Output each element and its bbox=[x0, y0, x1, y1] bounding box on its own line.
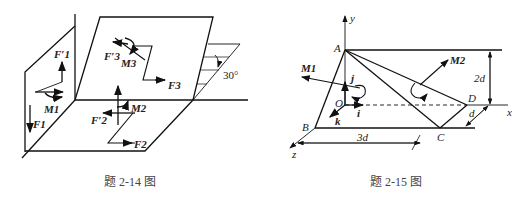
label-y: y bbox=[349, 12, 355, 24]
label-j: j bbox=[349, 72, 355, 84]
label-O: O bbox=[335, 97, 343, 109]
label-F1: F1 bbox=[32, 118, 46, 130]
inclined-plane bbox=[75, 17, 213, 100]
label-C: C bbox=[437, 131, 445, 143]
label-B: B bbox=[302, 121, 309, 133]
label-k: k bbox=[335, 115, 341, 127]
M1-arc bbox=[45, 93, 62, 98]
label-x: x bbox=[506, 106, 512, 118]
label-3d: 3d bbox=[356, 131, 369, 143]
label-M1: M1 bbox=[300, 62, 316, 74]
label-M2: M2 bbox=[449, 54, 466, 66]
figure-2-14-labels: F′1 F1 M1 F′2 F2 M2 F′3 F3 M3 30° bbox=[32, 48, 238, 150]
label-F3: F3 bbox=[167, 79, 181, 91]
label-M3: M3 bbox=[120, 57, 137, 69]
figure-2-15-labels: y x z A B C D O i j k M1 M2 2d 3d d bbox=[291, 12, 512, 160]
M2-vector bbox=[420, 60, 448, 85]
caption-fig-2-14: 题 2-14 图 bbox=[104, 172, 156, 190]
diagram-canvas: F′1 F1 M1 F′2 F2 M2 F′3 F3 M3 30° bbox=[0, 0, 527, 197]
edge-CD bbox=[440, 105, 467, 128]
label-M1: M1 bbox=[43, 103, 59, 115]
label-F1-prime: F′1 bbox=[53, 48, 70, 60]
label-d: d bbox=[469, 107, 475, 119]
caption-fig-2-15: 题 2-15 图 bbox=[370, 172, 422, 190]
label-F2-prime: F′2 bbox=[90, 114, 107, 126]
label-M2: M2 bbox=[130, 102, 147, 114]
label-F2: F2 bbox=[133, 138, 147, 150]
left-vertical-plane bbox=[25, 26, 75, 152]
label-i: i bbox=[357, 107, 361, 119]
label-D: D bbox=[467, 92, 476, 104]
label-angle: 30° bbox=[223, 69, 238, 81]
label-2d: 2d bbox=[474, 72, 486, 84]
label-z: z bbox=[291, 148, 297, 160]
figure-2-14 bbox=[22, 14, 248, 158]
label-F3-prime: F′3 bbox=[103, 50, 120, 62]
edge-AD bbox=[345, 50, 467, 105]
label-A: A bbox=[333, 42, 341, 54]
